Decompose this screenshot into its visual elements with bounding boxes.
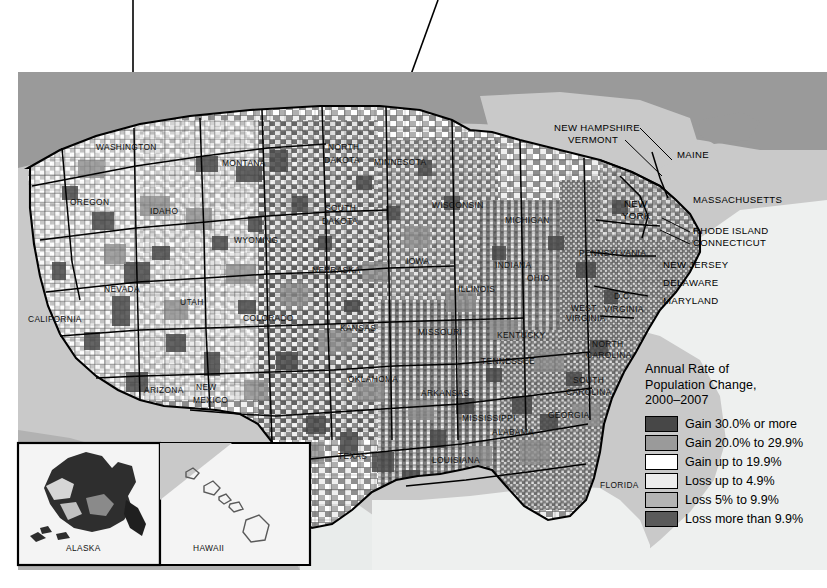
state-label: ALABAMA <box>492 427 534 437</box>
map-figure: WASHINGTONOREGONIDAHOMONTANAWYOMINGNEVAD… <box>0 0 827 588</box>
state-label: MEXICO <box>193 395 228 405</box>
northeast-label: CONNECTICUT <box>693 237 766 248</box>
state-label: OHIO <box>527 273 550 283</box>
legend-label: Loss 5% to 9.9% <box>685 493 779 507</box>
state-label: UTAH <box>180 297 204 307</box>
state-label: NEVADA <box>104 284 140 294</box>
state-label: NORTH <box>328 142 359 152</box>
state-label: VIRGINIA <box>566 313 606 323</box>
legend-label: Loss more than 9.9% <box>685 512 803 526</box>
state-label: OREGON <box>70 197 109 207</box>
state-label: IOWA <box>406 256 429 266</box>
legend-label: Loss up to 4.9% <box>685 474 775 488</box>
state-label: FLORIDA <box>600 480 639 490</box>
state-label: DAKOTA <box>324 155 360 165</box>
alaska-inset-label: ALASKA <box>66 543 101 553</box>
state-label: VIRGINIA <box>604 304 644 314</box>
state-label: WISCONSIN <box>432 200 484 210</box>
legend-swatch <box>645 511 678 527</box>
northeast-label: MARYLAND <box>663 295 719 306</box>
hawaii-inset-label: HAWAII <box>193 543 224 553</box>
legend-title-line-1: Annual Rate of <box>645 362 825 378</box>
northeast-label: YORK <box>622 210 651 221</box>
state-label: MISSISSIPPI <box>462 413 516 423</box>
state-label: OKLAHOMA <box>348 374 398 384</box>
state-label: LOUISIANA <box>432 455 480 465</box>
legend-title: Annual Rate of Population Change, 2000–2… <box>645 362 825 409</box>
state-label: CAROLINA <box>586 350 632 360</box>
state-label: WEST <box>571 303 597 313</box>
state-label: WYOMING <box>234 235 278 245</box>
legend-swatch <box>645 454 678 470</box>
legend-swatch <box>645 492 678 508</box>
state-label: GEORGIA <box>548 410 590 420</box>
northeast-label: MASSACHUSETTS <box>693 194 782 205</box>
state-label: ARIZONA <box>144 385 184 395</box>
northeast-label: NEW HAMPSHIRE <box>554 122 640 133</box>
state-label: D.C. <box>614 291 632 301</box>
legend-item: Loss up to 4.9% <box>645 473 825 490</box>
northeast-label: RHODE ISLAND <box>693 225 769 236</box>
state-label: ARKANSAS <box>421 388 469 398</box>
legend-item: Gain 30.0% or more <box>645 416 825 433</box>
legend-item: Gain up to 19.9% <box>645 454 825 471</box>
northeast-label: MAINE <box>677 149 709 160</box>
legend-label: Gain up to 19.9% <box>685 455 782 469</box>
state-label: DAKOTA <box>322 216 358 226</box>
map-legend: Annual Rate of Population Change, 2000–2… <box>645 362 825 530</box>
state-label: SOUTH <box>573 375 604 385</box>
state-label: CAROLINA <box>566 387 612 397</box>
state-label: TENNESSEE <box>481 356 535 366</box>
legend-label: Gain 20.0% to 29.9% <box>685 436 803 450</box>
state-label: NORTH <box>592 339 623 349</box>
state-label: CALIFORNIA <box>28 314 82 324</box>
legend-swatch <box>645 416 678 432</box>
legend-item: Loss 5% to 9.9% <box>645 492 825 509</box>
legend-swatch <box>645 435 678 451</box>
state-label: KENTUCKY <box>497 330 545 340</box>
state-label: MISSOURI <box>418 327 462 337</box>
state-label: NEW <box>196 382 217 392</box>
state-label: ILLINOIS <box>458 284 495 294</box>
state-label: NEBRASKA <box>312 265 360 275</box>
northeast-label: NEW <box>624 198 648 209</box>
state-label: PENNSYLVANIA <box>579 248 646 258</box>
state-label: KANSAS <box>340 323 376 333</box>
state-label: COLORADO <box>243 313 294 323</box>
legend-label: Gain 30.0% or more <box>685 417 797 431</box>
legend-item: Gain 20.0% to 29.9% <box>645 435 825 452</box>
legend-item: Loss more than 9.9% <box>645 511 825 528</box>
state-label: SOUTH <box>325 203 356 213</box>
state-label: INDIANA <box>495 260 531 270</box>
legend-title-line-3: 2000–2007 <box>645 393 825 409</box>
legend-swatch <box>645 473 678 489</box>
legend-title-line-2: Population Change, <box>645 378 825 394</box>
legend-items: Gain 30.0% or moreGain 20.0% to 29.9%Gai… <box>645 416 825 528</box>
state-label: WASHINGTON <box>96 142 157 152</box>
state-label: MICHIGAN <box>505 215 550 225</box>
state-label: MINNESOTA <box>374 157 426 167</box>
northeast-label: VERMONT <box>568 134 618 145</box>
hawaii-inset <box>160 443 310 565</box>
northeast-label: DELAWARE <box>663 277 719 288</box>
state-label: IDAHO <box>150 206 178 216</box>
state-label: MONTANA <box>222 158 266 168</box>
state-label: TEXAS <box>338 451 367 461</box>
northeast-label: NEW JERSEY <box>663 259 729 270</box>
